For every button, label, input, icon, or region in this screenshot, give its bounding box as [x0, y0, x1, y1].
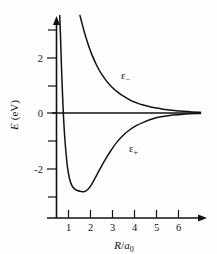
- y-tick-label-minus-2: -2: [34, 164, 43, 175]
- x-tick-label-6: 6: [176, 222, 181, 233]
- x-axis-title-subscript: 0: [130, 245, 134, 254]
- x-axis-ticks: [69, 210, 179, 218]
- y-axis-title-units: (eV): [8, 100, 21, 120]
- annotation-epsilon-plus: ε+: [129, 143, 138, 157]
- y-axis-title: E(eV): [8, 100, 21, 131]
- x-tick-label-3: 3: [110, 222, 115, 233]
- x-axis-title: R/a0: [113, 239, 133, 254]
- epsilon-plus-subscript: +: [133, 148, 138, 157]
- svg-text:R/a0: R/a0: [113, 239, 133, 254]
- epsilon-minus-subscript: −: [125, 75, 130, 84]
- x-tick-label-5: 5: [154, 222, 159, 233]
- curve-epsilon-plus: [60, 15, 201, 191]
- y-axis-arrowhead: [53, 16, 60, 25]
- annotation-epsilon-minus: ε−: [121, 70, 130, 84]
- svg-text:E(eV): E(eV): [8, 100, 21, 131]
- epsilon-minus-label: ε−: [121, 70, 130, 84]
- energy-curve-chart: 2 0 -2 1 2 3 4 5 6 ε−: [0, 0, 217, 254]
- x-tick-label-1: 1: [66, 222, 71, 233]
- x-axis-arrowhead: [198, 215, 207, 222]
- x-axis-tick-labels: 1 2 3 4 5 6: [66, 222, 181, 233]
- epsilon-plus-label: ε+: [129, 143, 138, 157]
- y-axis-tick-labels: 2 0 -2: [34, 53, 43, 175]
- x-axis: [47, 215, 207, 222]
- figure-root: 2 0 -2 1 2 3 4 5 6 ε−: [0, 0, 217, 254]
- x-tick-label-2: 2: [88, 222, 93, 233]
- y-axis-title-symbol: E: [8, 123, 20, 131]
- x-tick-label-4: 4: [132, 222, 138, 233]
- y-tick-label-2: 2: [38, 53, 43, 64]
- curve-epsilon-minus: [80, 15, 201, 112]
- y-tick-label-0: 0: [38, 108, 43, 119]
- y-axis: [53, 16, 60, 218]
